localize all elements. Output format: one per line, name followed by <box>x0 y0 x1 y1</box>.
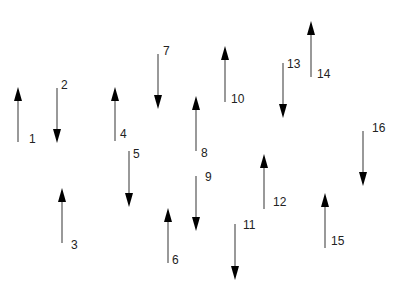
arrow-label: 14 <box>317 68 330 80</box>
arrow-up-icon <box>321 193 329 248</box>
arrow-label: 10 <box>231 93 244 105</box>
arrow-label: 2 <box>61 79 68 91</box>
arrowhead-icon <box>111 87 119 101</box>
arrow-up-icon <box>111 87 119 141</box>
arrow-label: 16 <box>372 122 385 134</box>
arrow-label: 15 <box>331 235 344 247</box>
arrow-label: 12 <box>273 196 286 208</box>
arrow-up-icon <box>192 96 200 151</box>
arrow-label: 4 <box>120 128 127 140</box>
arrowhead-icon <box>279 104 287 118</box>
arrow-down-icon <box>125 151 133 207</box>
arrowhead-icon <box>231 266 239 280</box>
arrow-label: 11 <box>243 219 255 231</box>
arrow-label: 3 <box>71 239 78 251</box>
arrowhead-icon <box>14 87 22 101</box>
arrowhead-icon <box>260 154 268 168</box>
arrowhead-icon <box>192 96 200 110</box>
arrow-label: 13 <box>287 58 300 70</box>
arrow-up-icon <box>221 46 229 102</box>
arrow-up-icon <box>260 154 268 209</box>
arrow-up-icon <box>58 188 66 243</box>
arrow-label: 7 <box>163 45 170 57</box>
arrow-up-icon <box>14 87 22 142</box>
arrowhead-icon <box>192 217 200 231</box>
arrow-down-icon <box>359 131 367 186</box>
arrowhead-icon <box>53 129 61 143</box>
arrow-diagram: 12345678910111213141516 <box>0 0 400 292</box>
arrow-label: 6 <box>172 254 179 266</box>
arrow-down-icon <box>154 54 162 109</box>
arrow-down-icon <box>53 88 61 143</box>
arrowhead-icon <box>58 188 66 202</box>
arrow-down-icon <box>279 63 287 118</box>
arrowhead-icon <box>154 95 162 109</box>
arrow-label: 5 <box>133 148 140 160</box>
arrow-label: 1 <box>29 133 36 145</box>
arrowhead-icon <box>221 46 229 60</box>
arrowhead-icon <box>307 21 315 35</box>
arrowhead-icon <box>164 208 172 222</box>
arrow-label: 8 <box>201 147 208 159</box>
arrowhead-icon <box>125 193 133 207</box>
arrow-down-icon <box>231 224 239 280</box>
arrow-label: 9 <box>205 171 212 183</box>
arrow-up-icon <box>307 21 315 77</box>
arrowhead-icon <box>321 193 329 207</box>
arrow-up-icon <box>164 208 172 263</box>
arrow-down-icon <box>192 176 200 231</box>
arrows-layer <box>0 0 400 292</box>
arrowhead-icon <box>359 172 367 186</box>
